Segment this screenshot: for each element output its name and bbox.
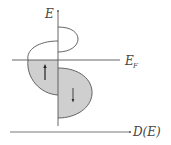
dos-diagram: E E F D(E) [0, 0, 171, 145]
energy-axis-arrowhead [57, 10, 59, 12]
spin-down-filled-region [58, 68, 92, 118]
dos-axis-label: D(E) [132, 125, 161, 139]
dos-axis-arrowhead [129, 131, 131, 133]
energy-axis-label: E [44, 7, 54, 21]
fermi-level-subscript: F [132, 62, 139, 70]
spin-down-upper-dos-curve [58, 27, 78, 52]
spin-up-filled-region [28, 60, 58, 95]
